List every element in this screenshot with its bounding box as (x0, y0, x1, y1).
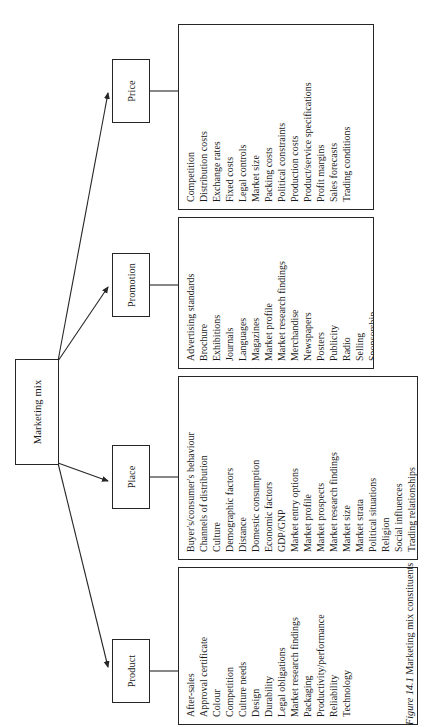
constituent-item: Magazines (249, 224, 262, 361)
constituent-item: Market profile (262, 224, 275, 361)
constituent-item: Market research findings (288, 574, 301, 717)
constituent-item: Newspapers (301, 224, 314, 361)
category-node-product: Product (112, 639, 150, 703)
constituent-item: Durability (262, 574, 275, 717)
figure-caption-title: Marketing mix constituents (404, 563, 415, 675)
constituent-item: Design (249, 574, 262, 717)
constituent-item: Radio (340, 224, 353, 361)
constituent-item: Selling (353, 224, 366, 361)
constituent-item: Trading conditions (340, 31, 353, 202)
constituent-item: Demographic factors (223, 383, 236, 552)
constituent-item: Publicity (327, 224, 340, 361)
constituent-list: CompetitionDistribution costsExchange ra… (184, 31, 353, 202)
constituent-item: Languages (236, 224, 249, 361)
constituent-item: Merchandise (288, 224, 301, 361)
constituent-item: Legal obligations (275, 574, 288, 717)
constituent-item: After-sales (184, 574, 197, 717)
constituent-item: Market size (340, 383, 353, 552)
category-node-label: Promotion (126, 263, 137, 307)
constituent-item: Domestic consumption (249, 383, 262, 552)
constituent-item: Brochure (197, 224, 210, 361)
constituent-item: Culture (210, 383, 223, 552)
constituent-item: Market research findings (275, 224, 288, 361)
constituent-item: Fixed costs (223, 31, 236, 202)
constituent-item: Political situations (366, 383, 379, 552)
constituent-item: Product/service specifications (301, 31, 314, 202)
constituent-item: Posters (314, 224, 327, 361)
constituent-list-promotion: Advertising standardsBrochureExhibitions… (178, 217, 374, 369)
constituent-item: Colour (210, 574, 223, 717)
category-node-label: Product (126, 655, 137, 687)
category-node-label: Price (126, 80, 137, 101)
constituent-item: Reliability (327, 574, 340, 717)
constituent-item: Channels of distribution (197, 383, 210, 552)
constituent-item: Market profile (301, 383, 314, 552)
constituent-item: Economic factors (262, 383, 275, 552)
constituent-item: Sponsorship (366, 224, 374, 361)
constituent-list: Advertising standardsBrochureExhibitions… (184, 224, 374, 361)
constituent-item: Exhibitions (210, 224, 223, 361)
constituent-item: Packing costs (262, 31, 275, 202)
constituent-item: Market entry options (288, 383, 301, 552)
category-node-promotion: Promotion (112, 253, 150, 317)
constituent-item: Approval certificate (197, 574, 210, 717)
constituent-item: Social influences (392, 383, 405, 552)
constituent-item: Advertising standards (184, 224, 197, 361)
figure-caption: Figure 14.1 Marketing mix constituents (404, 563, 415, 725)
figure-page: Marketing mix Product Place Promotion Pr… (0, 0, 428, 727)
marketing-mix-diagram: Marketing mix Product Place Promotion Pr… (0, 0, 428, 727)
root-node-marketing-mix: Marketing mix (15, 359, 59, 465)
constituent-item: Market strata (353, 383, 366, 552)
constituent-item: Market prospects (314, 383, 327, 552)
figure-caption-label: Figure 14.1 (404, 677, 415, 725)
constituent-item: Buyer's/consumer's behaviour (184, 383, 197, 552)
constituent-item: Packaging (301, 574, 314, 717)
category-node-place: Place (112, 445, 150, 509)
constituent-item: Market size (249, 31, 262, 202)
constituent-item: Journals (223, 224, 236, 361)
constituent-list: After-salesApproval certificateColourCom… (184, 574, 353, 717)
constituent-item: Technology (340, 574, 353, 717)
constituent-item: Competition (184, 31, 197, 202)
constituent-item: Production costs (288, 31, 301, 202)
constituent-item: GDP/GNP (275, 383, 288, 552)
constituent-item: Market research findings (327, 383, 340, 552)
constituent-item: Exchange rates (210, 31, 223, 202)
rotated-canvas: Marketing mix Product Place Promotion Pr… (0, 0, 428, 727)
constituent-item: Culture needs (236, 574, 249, 717)
constituent-item: Distance (236, 383, 249, 552)
constituent-item: Political constraints (275, 31, 288, 202)
category-node-price: Price (112, 59, 150, 123)
constituent-list-product: After-salesApproval certificateColourCom… (178, 567, 418, 725)
constituent-item: Profit margins (314, 31, 327, 202)
constituent-list: Buyer's/consumer's behaviourChannels of … (184, 383, 418, 552)
constituent-item: Religion (379, 383, 392, 552)
constituent-item: Productivity/performance (314, 574, 327, 717)
constituent-list-place: Buyer's/consumer's behaviourChannels of … (178, 376, 418, 560)
constituent-item: Distribution costs (197, 31, 210, 202)
category-node-label: Place (126, 466, 137, 489)
constituent-item: Sales forecasts (327, 31, 340, 202)
constituent-item: Trading relationships (405, 383, 418, 552)
constituent-item: Legal controls (236, 31, 249, 202)
constituent-item: Competition (223, 574, 236, 717)
root-node-label: Marketing mix (32, 380, 43, 445)
constituent-list-price: CompetitionDistribution costsExchange ra… (178, 24, 374, 210)
